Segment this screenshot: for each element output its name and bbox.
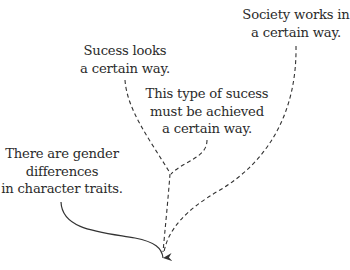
node-success-achieved: This type of sucess must be achieved a c… bbox=[146, 85, 269, 138]
edge-junction-to-target bbox=[163, 174, 170, 252]
node-success-looks-line-1: Sucess looks bbox=[80, 42, 170, 60]
node-society-line-1: Society works in bbox=[242, 6, 349, 24]
edge-gender-to-target bbox=[61, 202, 163, 258]
node-success-looks-line-2: a certain way. bbox=[80, 60, 170, 78]
edge-success-achieved-to-junction bbox=[171, 140, 207, 174]
node-society-line-2: a certain way. bbox=[242, 24, 349, 42]
node-success-achieved-line-1: This type of sucess bbox=[146, 85, 269, 103]
node-success-achieved-line-3: a certain way. bbox=[146, 120, 269, 138]
node-gender-line-1: There are gender bbox=[1, 145, 123, 163]
node-society: Society works in a certain way. bbox=[242, 6, 349, 41]
node-gender-line-2: differences bbox=[1, 163, 123, 181]
node-success-achieved-line-2: must be achieved bbox=[146, 103, 269, 121]
edge-society-to-target bbox=[164, 46, 296, 252]
node-success-looks: Sucess looks a certain way. bbox=[80, 42, 170, 77]
node-gender: There are gender differences in characte… bbox=[1, 145, 123, 198]
node-gender-line-3: in character traits. bbox=[1, 180, 123, 198]
